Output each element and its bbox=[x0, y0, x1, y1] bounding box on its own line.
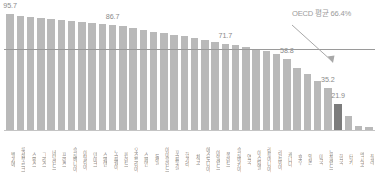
category-label: 네덜란드 bbox=[46, 133, 56, 185]
bar-column bbox=[46, 0, 56, 131]
bar bbox=[252, 49, 259, 131]
bar-column bbox=[313, 0, 323, 131]
bar-column bbox=[56, 0, 66, 131]
bar bbox=[293, 68, 300, 131]
bar bbox=[181, 36, 188, 131]
bar bbox=[119, 26, 126, 131]
bar-column bbox=[220, 0, 230, 131]
bar-highlighted bbox=[334, 104, 341, 131]
bar-column bbox=[354, 0, 364, 131]
oecd-average-reference-line bbox=[4, 49, 375, 50]
bar bbox=[242, 47, 249, 131]
bar-column bbox=[302, 0, 312, 131]
bar bbox=[109, 25, 116, 131]
category-label: 일본 bbox=[302, 133, 312, 185]
bar bbox=[99, 24, 106, 131]
bars-layer: 95.786.771.758.835.221.9 bbox=[0, 0, 379, 131]
category-label: 스페인 bbox=[138, 133, 148, 185]
oecd-average-annotation-label: OECD 평균 66.4% bbox=[292, 10, 351, 18]
bar bbox=[273, 54, 280, 131]
bar-column bbox=[87, 0, 97, 131]
bar-column bbox=[128, 0, 138, 131]
bar-column bbox=[118, 0, 128, 131]
category-label: 헝가리 bbox=[179, 133, 189, 185]
bar-column bbox=[5, 0, 15, 131]
bar-chart: 95.786.771.758.835.221.9 OECD 평균 66.4% 벨… bbox=[0, 0, 379, 188]
bar-column bbox=[333, 0, 343, 131]
bar bbox=[160, 33, 167, 131]
bar bbox=[37, 18, 44, 131]
x-axis-baseline bbox=[4, 130, 375, 131]
bar bbox=[222, 44, 229, 131]
category-label: 뉴질랜드 bbox=[323, 133, 333, 185]
category-label: 프랑스 bbox=[56, 133, 66, 185]
bar-column bbox=[200, 0, 210, 131]
bar-column bbox=[282, 0, 292, 131]
category-label: 핀란드 bbox=[118, 133, 128, 185]
category-label: 멕시코 bbox=[354, 133, 364, 185]
category-label: 벨기에 bbox=[5, 133, 15, 185]
bar-column bbox=[241, 0, 251, 131]
bar-column bbox=[159, 0, 169, 131]
category-label: 독일 bbox=[149, 133, 159, 185]
category-label: 캐나다 bbox=[282, 133, 292, 185]
category-label: 노르웨이 bbox=[108, 133, 118, 185]
bar bbox=[283, 59, 290, 131]
bar bbox=[78, 22, 85, 131]
category-label: 이탈리아 bbox=[77, 133, 87, 185]
category-label: 호주 bbox=[292, 133, 302, 185]
category-label: 덴마크 bbox=[87, 133, 97, 185]
bar-column bbox=[261, 0, 271, 131]
bar-column bbox=[210, 0, 220, 131]
category-label: 아일랜드 bbox=[210, 133, 220, 185]
category-label: 스위스 bbox=[26, 133, 36, 185]
bar-column bbox=[26, 0, 36, 131]
bar-column bbox=[15, 0, 25, 131]
bar-column bbox=[169, 0, 179, 131]
bar bbox=[129, 28, 136, 131]
category-label: 체코 bbox=[190, 133, 200, 185]
category-label: 칠레 bbox=[364, 133, 374, 185]
bar bbox=[88, 23, 95, 131]
category-label: 한국 bbox=[333, 133, 343, 185]
bar-column bbox=[149, 0, 159, 131]
category-label: 포르투갈 bbox=[169, 133, 179, 185]
category-label: 아이슬란드 bbox=[159, 133, 169, 185]
bar bbox=[232, 45, 239, 131]
category-label: 영국 bbox=[241, 133, 251, 185]
bar bbox=[27, 17, 34, 131]
bar-column bbox=[231, 0, 241, 131]
category-label: 룩셈부르크 bbox=[15, 133, 25, 185]
category-labels: 벨기에룩셈부르크스위스그리스네덜란드프랑스슬로베니아이탈리아덴마크스웨덴노르웨이… bbox=[0, 133, 379, 188]
category-label: 미국 bbox=[313, 133, 323, 185]
bar-column bbox=[67, 0, 77, 131]
category-label: 에스토니아 bbox=[200, 133, 210, 185]
bar bbox=[150, 32, 157, 131]
bar bbox=[6, 14, 13, 131]
category-label: 폴란드 bbox=[220, 133, 230, 185]
bar-column bbox=[251, 0, 261, 131]
bar-column bbox=[272, 0, 282, 131]
bar-column bbox=[292, 0, 302, 131]
bar-column bbox=[77, 0, 87, 131]
bar bbox=[345, 116, 352, 131]
bar bbox=[17, 16, 24, 131]
bar bbox=[68, 21, 75, 131]
bar-column bbox=[343, 0, 353, 131]
bar-column bbox=[36, 0, 46, 131]
category-label: 슬로베니아 bbox=[67, 133, 77, 185]
category-label: 리투아니아 bbox=[261, 133, 271, 185]
bar-column bbox=[190, 0, 200, 131]
category-label: 터키 bbox=[343, 133, 353, 185]
bar bbox=[191, 38, 198, 131]
category-label: 스웨덴 bbox=[97, 133, 107, 185]
plot-area: 95.786.771.758.835.221.9 OECD 평균 66.4% bbox=[0, 0, 379, 131]
bar bbox=[140, 30, 147, 131]
category-label: 라트비아 bbox=[272, 133, 282, 185]
category-label: 이스라엘 bbox=[251, 133, 261, 185]
bar bbox=[47, 19, 54, 131]
bar bbox=[263, 51, 270, 131]
bar-column bbox=[138, 0, 148, 131]
bar bbox=[58, 20, 65, 131]
category-label: 그리스 bbox=[36, 133, 46, 185]
